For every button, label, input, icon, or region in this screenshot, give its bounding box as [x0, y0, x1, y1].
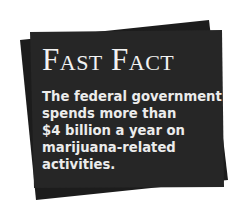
fast-fact-title: Fast Fact: [42, 44, 174, 75]
fact-line: spends more than: [42, 105, 222, 122]
fact-line: activities.: [42, 156, 222, 173]
fact-line: The federal government: [42, 88, 222, 105]
fact-text: The federal government spends more than …: [42, 88, 222, 173]
fact-line: marijuana-related: [42, 139, 222, 156]
fact-line: $4 billion a year on: [42, 122, 222, 139]
